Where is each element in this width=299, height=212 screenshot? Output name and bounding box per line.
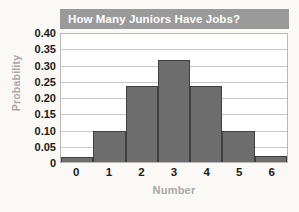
y-axis-tick-label: 0.20	[35, 93, 56, 104]
bar	[126, 86, 158, 162]
plot-area	[60, 33, 288, 163]
y-axis-tick-label: 0.25	[35, 77, 56, 88]
x-axis-tick-label: 3	[158, 166, 191, 178]
bar	[158, 60, 190, 162]
bar	[222, 131, 254, 162]
y-axis-tick-label: 0	[50, 158, 56, 169]
x-axis-tick-label: 1	[93, 166, 126, 178]
x-axis-tick-label: 6	[255, 166, 288, 178]
y-axis-tick-label: 0.10	[35, 126, 56, 137]
y-axis-tick-label: 0.35	[35, 44, 56, 55]
y-axis-tick-label: 0.05	[35, 142, 56, 153]
chart-figure: How Many Juniors Have Jobs? Probability …	[0, 0, 299, 212]
x-axis-tick-label: 5	[223, 166, 256, 178]
x-axis-tick-label: 2	[125, 166, 158, 178]
bar	[61, 157, 93, 162]
y-axis-tick-label: 0.40	[35, 28, 56, 39]
bar	[255, 156, 287, 163]
y-axis-tick-label: 0.15	[35, 109, 56, 120]
x-axis-tick-label: 4	[190, 166, 223, 178]
bar	[190, 86, 222, 162]
x-axis-tick-labels: 0123456	[60, 166, 288, 178]
x-axis-label: Number	[60, 184, 288, 196]
bar	[93, 131, 125, 162]
y-axis-tick-label: 0.30	[35, 61, 56, 72]
x-axis-tick-label: 0	[60, 166, 93, 178]
bar-series	[61, 34, 287, 162]
